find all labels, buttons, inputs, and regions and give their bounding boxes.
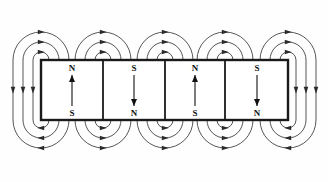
field-arrowhead xyxy=(100,126,107,131)
magnet-bar xyxy=(41,60,288,120)
field-arrowhead xyxy=(162,146,169,151)
field-arrowhead xyxy=(162,136,169,141)
field-arrowhead xyxy=(284,126,291,131)
field-arrowhead xyxy=(294,87,299,94)
field-arrowhead xyxy=(100,30,107,35)
field-line-arc-top xyxy=(137,32,193,60)
field-arrowhead xyxy=(100,50,107,55)
field-arrowhead xyxy=(285,30,292,35)
magnetic-domain-diagram: NSSNNSSN xyxy=(0,0,328,182)
field-arrowhead xyxy=(285,50,292,55)
field-arrowhead xyxy=(38,50,45,55)
field-arrowhead xyxy=(21,87,26,94)
field-arrowhead xyxy=(37,126,44,131)
field-arrowhead xyxy=(222,146,229,151)
field-arrowhead xyxy=(222,30,229,35)
magnet-cell-pole-bottom: N xyxy=(131,108,138,118)
field-arrowhead xyxy=(222,40,229,45)
field-arrowhead xyxy=(314,87,319,94)
field-arrowhead xyxy=(11,87,16,94)
field-arrowhead xyxy=(100,40,107,45)
field-arrowhead xyxy=(285,40,292,45)
magnet-cell-pole-top: N xyxy=(69,63,76,73)
magnet-cell-pole-top: S xyxy=(131,63,136,73)
field-arrowhead xyxy=(162,40,169,45)
field-arrowhead xyxy=(37,136,44,141)
magnet-cell-pole-bottom: S xyxy=(69,108,74,118)
field-line-arc-top xyxy=(75,32,131,60)
field-line-arc-bottom xyxy=(137,120,193,148)
field-arrowhead xyxy=(162,50,169,55)
field-arrowhead xyxy=(38,30,45,35)
field-arrowhead xyxy=(100,136,107,141)
field-arrowhead xyxy=(304,87,309,94)
field-arrowhead xyxy=(284,136,291,141)
field-arrowhead xyxy=(222,126,229,131)
magnet-cell-pole-top: N xyxy=(192,63,199,73)
field-arrowhead xyxy=(222,136,229,141)
field-arrowhead xyxy=(222,50,229,55)
magnet-cell-pole-bottom: S xyxy=(192,108,197,118)
field-arrowhead xyxy=(37,146,44,151)
field-arrowhead xyxy=(162,126,169,131)
field-line-arc-top xyxy=(197,32,253,60)
field-arrowhead xyxy=(38,40,45,45)
field-arrowhead xyxy=(162,30,169,35)
field-arrowhead xyxy=(100,146,107,151)
field-line-arc-bottom xyxy=(197,120,253,148)
field-line-arc-bottom xyxy=(75,120,131,148)
magnet-cell-pole-top: S xyxy=(254,63,259,73)
field-arrowhead xyxy=(284,146,291,151)
diagram-canvas: NSSNNSSN xyxy=(0,0,328,182)
magnet-cell-pole-bottom: N xyxy=(254,108,261,118)
field-arrowhead xyxy=(31,87,36,94)
